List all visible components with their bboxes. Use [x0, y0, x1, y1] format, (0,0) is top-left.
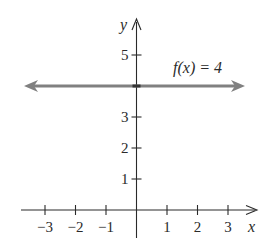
x-tick-label: −2: [68, 219, 84, 235]
x-tick-label: −3: [37, 219, 53, 235]
y-tick-label: 1: [121, 171, 129, 187]
function-line: [24, 80, 245, 92]
y-axis: 1235: [121, 19, 142, 238]
x-tick-label: 1: [163, 219, 171, 235]
function-graph: −3−2−1123 1235 f(x) = 4 x y: [0, 0, 265, 249]
x-tick-label: 2: [194, 219, 202, 235]
y-tick-label: 3: [121, 109, 129, 125]
function-label: f(x) = 4: [173, 59, 222, 77]
x-tick-label: −1: [98, 219, 114, 235]
x-axis-label: x: [247, 218, 255, 235]
y-axis-label: y: [118, 16, 128, 34]
y-tick-label: 2: [121, 140, 129, 156]
x-tick-label: 3: [224, 219, 232, 235]
x-axis: −3−2−1123: [21, 205, 257, 235]
y-tick-label: 5: [121, 47, 129, 63]
